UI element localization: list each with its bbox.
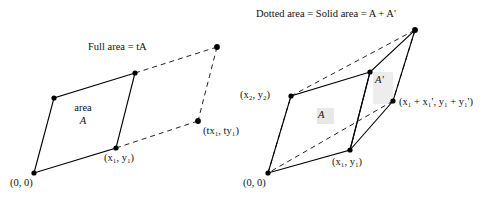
left-x1y1-label: (x₁, y₁) <box>104 152 134 164</box>
left-dashed-bottom-edge <box>116 121 198 148</box>
right-caption: Dotted area = Solid area = A + A' <box>256 8 396 20</box>
left-origin-label: (0, 0) <box>10 177 33 189</box>
right-vertex-topmid-dot <box>367 69 372 74</box>
right-diagram <box>265 27 418 175</box>
left-area-symbol: A <box>63 115 103 127</box>
left-scaled-point-label: (tx₁, ty₁) <box>203 125 239 137</box>
right-x1y1-label: (x₁, y₁) <box>332 156 362 168</box>
right-area-a-prime-label: A' <box>375 74 384 86</box>
left-area-word: area <box>63 102 103 114</box>
left-dashed-top-edge <box>135 47 217 73</box>
left-vertex-scaled-top-dot <box>214 44 220 50</box>
right-sum-point-label: (x₁ + x₁', y₁ + y₁') <box>399 96 473 108</box>
right-vertex-sum-dot <box>390 98 395 103</box>
right-vertex-x1y1-dot <box>347 147 352 152</box>
left-vertex-top-dot <box>132 70 137 75</box>
left-vertex-origin-dot <box>31 170 36 175</box>
right-vertex-origin-dot <box>265 170 270 175</box>
left-vertex-upper-left-dot <box>51 95 56 100</box>
right-x2y2-label: (x₂, y₂) <box>240 89 270 101</box>
right-area-a-label: A <box>318 109 324 121</box>
left-dashed-right-edge <box>198 47 217 121</box>
right-origin-label: (0, 0) <box>243 177 266 189</box>
left-vertex-scaled-x1y1-dot <box>195 118 201 124</box>
figure-container: Full area = tA area A (0, 0) (x₁, y₁) (t… <box>0 0 501 203</box>
left-caption: Full area = tA <box>88 41 147 53</box>
right-dashed-top-edge <box>291 30 415 96</box>
right-vertex-apex-dot <box>412 27 418 33</box>
left-vertex-x1y1-dot <box>113 145 118 150</box>
right-vertex-x2y2-dot <box>288 93 293 98</box>
